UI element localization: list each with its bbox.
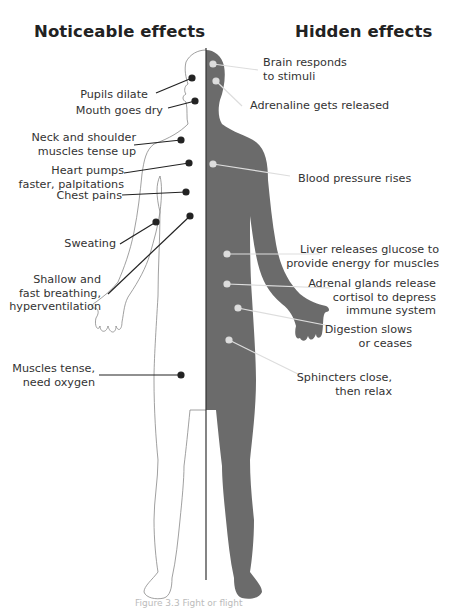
label-digestion-slows: Digestion slows or ceases bbox=[325, 323, 412, 350]
label-shallow-breathing: Shallow and fast breathing, hyperventila… bbox=[9, 273, 101, 314]
label-sweating: Sweating bbox=[64, 237, 116, 251]
label-chest-pains: Chest pains bbox=[56, 189, 122, 203]
label-mouth-goes-dry: Mouth goes dry bbox=[76, 104, 163, 118]
label-adrenal-cortisol: Adrenal glands release cortisol to depre… bbox=[308, 277, 436, 318]
figure-caption: Figure 3.3 Fight or flight bbox=[135, 598, 243, 610]
label-brain-responds: Brain responds to stimuli bbox=[263, 56, 347, 83]
silhouette-right-half bbox=[206, 50, 329, 599]
label-blood-pressure: Blood pressure rises bbox=[298, 172, 411, 186]
label-heart-pumps: Heart pumps faster, palpitations bbox=[19, 164, 124, 191]
label-sphincters: Sphincters close, then relax bbox=[297, 371, 392, 398]
outline-left-arm-inner bbox=[157, 176, 162, 212]
label-liver-glucose: Liver releases glucose to provide energy… bbox=[286, 243, 439, 270]
label-neck-shoulder-tense: Neck and shoulder muscles tense up bbox=[31, 131, 136, 158]
label-muscles-tense: Muscles tense, need oxygen bbox=[12, 362, 95, 389]
noticeable-pointers bbox=[99, 75, 198, 378]
label-adrenaline-released: Adrenaline gets released bbox=[250, 99, 389, 113]
label-pupils-dilate: Pupils dilate bbox=[80, 88, 148, 102]
